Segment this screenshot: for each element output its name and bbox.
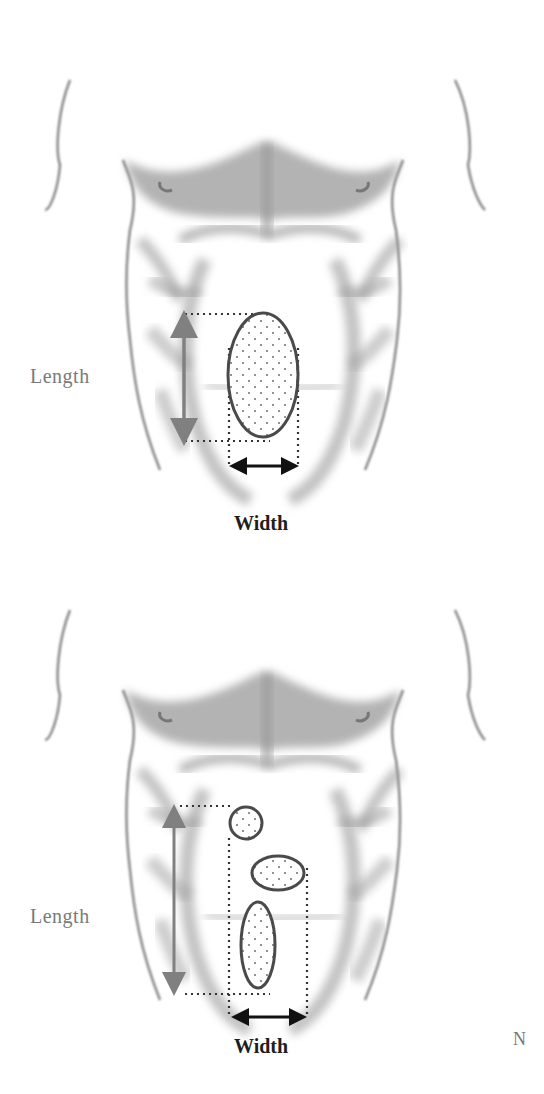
cropped-text-fragment: N [513, 1029, 526, 1050]
length-label-bottom: Length [30, 905, 90, 928]
lesion-single [228, 313, 298, 437]
width-label-bottom: Width [234, 1035, 288, 1058]
lesion-small-circle [230, 807, 262, 839]
lesion-horizontal-ellipse [252, 856, 304, 890]
width-label-top: Width [234, 512, 288, 535]
lesion-vertical-ellipse [241, 902, 275, 988]
diagram-canvas [0, 0, 544, 1094]
length-label-top: Length [30, 365, 90, 388]
